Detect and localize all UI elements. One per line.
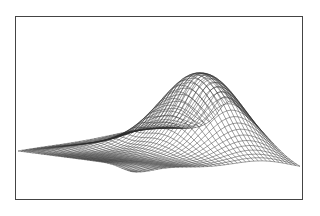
surface-mesh	[18, 73, 300, 172]
wireframe-surface-plot	[0, 0, 320, 216]
mesh-lines	[18, 73, 300, 172]
